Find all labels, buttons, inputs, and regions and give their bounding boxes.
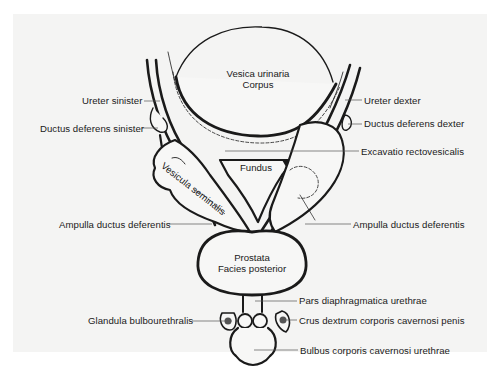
bladder-label-line2: Corpus <box>218 80 298 91</box>
prostate-label-line2: Facies posterior <box>212 264 292 275</box>
prostate-label-line1: Prostata <box>212 253 292 264</box>
label-pars-diaphragmatica-urethrae: Pars diaphragmatica urethrae <box>299 295 427 306</box>
label-ureter-dexter: Ureter dexter <box>364 95 421 106</box>
label-excavatio-rectovesicalis: Excavatio rectovesicalis <box>361 146 464 157</box>
fundus-label: Fundus <box>236 163 276 174</box>
anatomy-illustration <box>0 0 503 389</box>
label-crus-dextrum: Crus dextrum corporis cavernosi penis <box>299 315 465 326</box>
bulbus-shape <box>230 328 276 365</box>
label-ductus-deferens-dexter: Ductus deferens dexter <box>364 118 464 129</box>
bladder-label-line1: Vesica urinaria <box>218 69 298 80</box>
prostate-label: Prostata Facies posterior <box>212 253 292 274</box>
label-ampulla-ductus-deferentis-left: Ampulla ductus deferentis <box>59 219 171 230</box>
urethra-diaphragmatic-part <box>243 295 262 312</box>
label-glandula-bulbourethralis: Glandula bulbourethralis <box>88 315 193 326</box>
label-ductus-deferens-sinister: Ductus deferens sinister <box>40 123 144 134</box>
label-bulbus-corporis: Bulbus corporis cavernosi urethrae <box>300 345 450 356</box>
bladder-label: Vesica urinaria Corpus <box>218 69 298 90</box>
label-ureter-sinister: Ureter sinister <box>82 95 142 106</box>
label-ampulla-ductus-deferentis-right: Ampulla ductus deferentis <box>353 219 465 230</box>
